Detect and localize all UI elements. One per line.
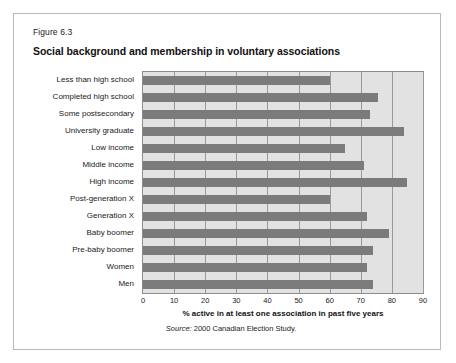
bar [143,178,407,187]
source-text: 2000 Canadian Election Study. [192,324,297,333]
category-label: Low income [91,143,134,153]
category-label: Less than high school [57,75,134,85]
category-label: Completed high school [53,92,134,102]
x-tick-label: 80 [388,296,396,305]
x-tick-label: 60 [325,296,333,305]
category-label: University graduate [65,126,134,136]
source-note: Source: 2000 Canadian Election Study. [33,324,429,333]
figure-number: Figure 6.3 [33,27,72,37]
x-tick-label: 20 [201,296,209,305]
x-tick-label: 40 [263,296,271,305]
page-background: Figure 6.3 Social background and members… [0,0,456,363]
bar [143,110,370,119]
figure-container: Figure 6.3 Social background and members… [13,13,441,350]
bar-chart: Less than high schoolCompleted high scho… [33,71,429,311]
bar [143,246,373,255]
bar [143,263,367,272]
x-tick-label: 90 [419,296,427,305]
category-label: Middle income [82,160,134,170]
bar [143,229,389,238]
category-label: Baby boomer [86,228,134,238]
bar [143,195,330,204]
x-tick-label: 70 [357,296,365,305]
category-label: High income [90,177,134,187]
category-label: Generation X [87,211,134,221]
category-label: Men [118,279,134,289]
bar [143,127,404,136]
x-tick-label: 0 [141,296,145,305]
bar [143,76,330,85]
x-axis-title: % active in at least one association in … [142,309,424,318]
category-label: Some postsecondary [59,109,134,119]
source-label: Source: [166,324,192,333]
x-tick-label: 50 [294,296,302,305]
x-axis-tick-labels: 0102030405060708090 [142,296,424,309]
bar [143,212,367,221]
bar [143,280,373,289]
category-label: Pre-baby boomer [72,245,134,255]
plot-area [142,71,424,294]
category-axis-labels: Less than high schoolCompleted high scho… [33,71,138,294]
bar [143,144,345,153]
category-label: Women [107,262,134,272]
gridline [423,72,424,293]
bar [143,93,378,102]
x-tick-label: 10 [170,296,178,305]
x-tick-label: 30 [232,296,240,305]
bar [143,161,364,170]
category-label: Post-generation X [70,194,134,204]
figure-title: Social background and membership in volu… [33,45,340,57]
